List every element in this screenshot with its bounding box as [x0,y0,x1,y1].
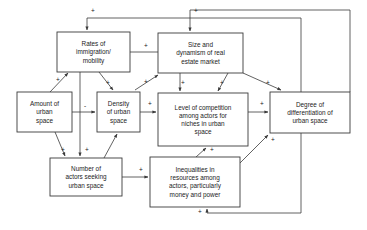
diagram-root: Rates ofimmigration/mobilitySize anddyna… [0,0,367,230]
inequalities-in-resources-among-actors-label-line: actors, particularly [169,182,222,190]
link-actors-to-inequalities-sign: + [139,166,143,173]
link-degree-to-market-sign: + [194,7,198,14]
amount-of-urban-space-label-line: urban [36,108,53,115]
size-and-dynamism-of-real-estate-market-label-line: estate market [181,58,220,65]
link-density-to-market-sign: + [144,78,148,85]
density-of-urban-space-label-line: of urban [107,108,131,115]
causal-loop-diagram: Rates ofimmigration/mobilitySize anddyna… [0,0,367,230]
number-of-actors-seeking-urban-space-label-line: actors seeking [65,173,107,181]
node-density-of-urban-space: Densityof urbanspace [97,92,140,132]
node-level-of-competition-among-actors: Level of competitionamong actors fornich… [158,93,248,146]
degree-of-differentiation-of-urban-space-label-line: differentiation of [287,109,333,116]
amount-of-urban-space-label-line: Amount of [30,100,59,107]
link-inequalities-to-degree-sign: + [271,136,275,143]
link-rates-to-density-sign: + [106,79,110,86]
link-amount-to-rates-sign: + [56,76,60,83]
link-market-to-competition-right-sign: + [220,79,224,86]
link-rates-to-actors-sign: + [85,146,89,153]
degree-of-differentiation-of-urban-space-label-line: urban space [292,117,328,125]
inequalities-in-resources-among-actors-label-line: money and power [170,191,222,199]
node-degree-of-differentiation-of-urban-space: Degree ofdifferentiation ofurban space [270,92,350,133]
node-rates-of-immigration-mobility: Rates ofimmigration/mobility [57,32,130,72]
size-and-dynamism-of-real-estate-market-label-line: Size and [188,41,213,48]
level-of-competition-among-actors-label-line: Level of competition [175,104,232,112]
link-degree-to-rates-sign: + [91,7,95,14]
level-of-competition-among-actors-label-line: niches in urban [181,120,225,127]
link-amount-to-actors-sign: + [61,146,65,153]
rates-of-immigration-mobility-label-line: Rates of [82,40,106,47]
level-of-competition-among-actors-label-line: among actors for [179,112,228,120]
rates-of-immigration-mobility-label-line: immigration/ [76,48,111,56]
link-amount-to-density-sign: - [84,102,86,109]
node-size-and-dynamism-of-real-estate-market: Size anddynamism of realestate market [158,33,243,73]
link-degree-to-inequalities-sign: + [198,208,202,215]
link-market-to-degree [243,73,281,90]
link-market-to-degree-sign: + [266,79,270,86]
link-inequalities-to-competition [196,148,206,157]
node-amount-of-urban-space: Amount ofurbanspace [17,92,72,132]
nodes-layer: Rates ofimmigration/mobilitySize anddyna… [17,32,350,207]
node-number-of-actors-seeking-urban-space: Number ofactors seekingurban space [50,158,122,196]
density-of-urban-space-label-line: Density [108,100,130,108]
node-inequalities-in-resources-among-actors: Inequalities inresources amongactors, pa… [150,157,240,207]
link-market-to-competition-left-sign: + [181,79,185,86]
inequalities-in-resources-among-actors-label-line: resources among [170,174,220,182]
density-of-urban-space-label-line: space [110,117,127,125]
amount-of-urban-space-label-line: space [36,117,53,125]
link-density-to-competition-sign: + [148,100,152,107]
link-competition-to-degree-sign: + [260,100,264,107]
degree-of-differentiation-of-urban-space-label-line: Degree of [296,101,324,109]
number-of-actors-seeking-urban-space-label-line: urban space [68,182,104,190]
level-of-competition-among-actors-label-line: space [194,128,211,136]
link-inequalities-to-competition-sign: + [210,146,214,153]
size-and-dynamism-of-real-estate-market-label-line: dynamism of real [176,49,225,57]
inequalities-in-resources-among-actors-label-line: Inequalities in [175,166,215,174]
rates-of-immigration-mobility-label-line: mobility [83,57,105,65]
number-of-actors-seeking-urban-space-label-line: Number of [71,165,101,172]
link-actors-to-density [104,134,117,158]
link-rates-to-market-sign: + [144,42,148,49]
